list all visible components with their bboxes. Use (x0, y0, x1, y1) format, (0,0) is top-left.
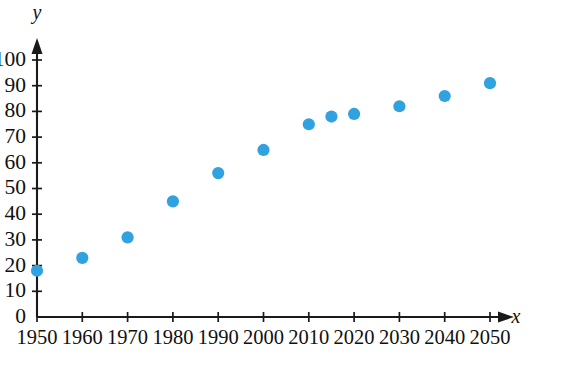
x-axis-tick-label: 2020 (334, 326, 375, 348)
x-axis-tick-labels: 1950196019701980199020002010202020302040… (17, 326, 511, 348)
plot-canvas: 0102030405060708090100 19501960197019801… (0, 0, 562, 369)
y-axis-label: y (31, 1, 42, 24)
data-point (122, 231, 134, 243)
data-point (257, 144, 269, 156)
x-axis-tick-label: 1950 (17, 326, 58, 348)
y-axis-tick-labels: 0102030405060708090100 (0, 47, 26, 328)
y-axis-tick-label: 40 (5, 201, 27, 225)
x-axis-tick-label: 2040 (424, 326, 465, 348)
data-point (303, 118, 315, 130)
x-axis-tick-label: 1970 (107, 326, 148, 348)
y-axis-tick-label: 90 (5, 73, 27, 97)
scatter-plot-figure: 0102030405060708090100 19501960197019801… (0, 0, 562, 369)
x-axis-tick-label: 1960 (62, 326, 103, 348)
y-axis-arrowhead (32, 38, 43, 54)
data-point (167, 195, 179, 207)
y-axis-tick-label: 0 (15, 304, 26, 328)
y-axis-tick-label: 70 (5, 124, 27, 148)
data-point (212, 167, 224, 179)
x-axis-tick-label: 2030 (379, 326, 420, 348)
data-point (439, 90, 451, 102)
data-points (31, 77, 496, 277)
x-axis-tick-label: 2050 (470, 326, 511, 348)
x-axis (37, 312, 514, 323)
data-point (31, 265, 43, 277)
x-axis-tick-label: 1990 (198, 326, 239, 348)
x-axis-tick-label: 2010 (288, 326, 329, 348)
data-point (348, 108, 360, 120)
y-axis-tick-label: 60 (5, 150, 27, 174)
data-point (325, 110, 337, 122)
x-axis-tick-label: 2000 (243, 326, 284, 348)
y-axis-tick-label: 30 (5, 227, 27, 251)
x-axis-label: x (511, 305, 521, 327)
x-axis-ticks (37, 305, 490, 322)
y-axis-tick-label: 10 (5, 278, 27, 302)
y-axis-tick-label: 80 (5, 98, 27, 122)
data-point (484, 77, 496, 89)
y-axis-tick-label: 100 (0, 47, 26, 71)
data-point (76, 252, 88, 264)
y-axis-tick-label: 20 (5, 253, 27, 277)
y-axis-tick-label: 50 (5, 175, 27, 199)
data-point (393, 100, 405, 112)
x-axis-tick-label: 1980 (152, 326, 193, 348)
